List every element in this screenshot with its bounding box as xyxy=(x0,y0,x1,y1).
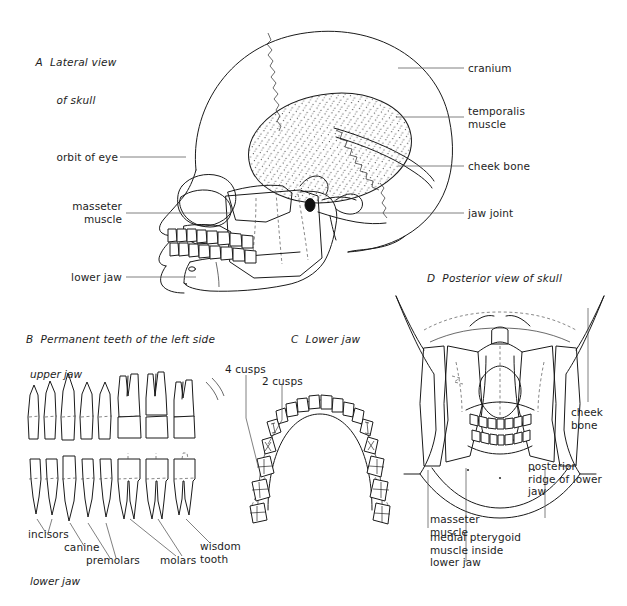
label-orbit-of-eye: orbit of eye xyxy=(24,151,118,164)
label-cheek-bone-d: cheek bone xyxy=(571,406,603,431)
lower-jaw-teeth-row xyxy=(29,453,195,521)
label-molars: molars xyxy=(160,554,196,567)
leader-premolars-2 xyxy=(106,523,116,558)
anatomy-figure-skull-and-teeth: A Lateral view of skull orbit of eye mas… xyxy=(0,0,627,606)
arch-anterior-teeth xyxy=(276,395,364,424)
leader-molars-1 xyxy=(130,519,176,556)
panel-b-title: B Permanent teeth of the left side xyxy=(26,333,215,346)
panel-a-title: A Lateral view of skull xyxy=(22,31,130,131)
posterior-lower-teeth xyxy=(472,430,530,445)
label-lower-jaw-a: lower jaw xyxy=(24,271,122,284)
temporalis-muscle-shape xyxy=(241,82,420,214)
label-temporalis-muscle: temporalis muscle xyxy=(468,105,525,130)
posterior-upper-teeth xyxy=(470,414,531,429)
panel-d-title: D Posterior view of skull xyxy=(427,272,562,285)
jaw-joint-marker xyxy=(305,199,315,212)
label-2-cusps: 2 cusps xyxy=(262,375,303,388)
arch-molars xyxy=(250,456,390,524)
label-incisors: incisors xyxy=(28,528,69,541)
panel-a-lateral-skull-art xyxy=(120,31,464,293)
label-lower-jaw-b: lower jaw xyxy=(30,575,80,588)
label-masseter-muscle-a: masseter muscle xyxy=(24,200,122,225)
label-cranium: cranium xyxy=(468,62,512,75)
panel-a-title-line1: A Lateral view xyxy=(22,56,130,69)
label-jaw-joint: jaw joint xyxy=(468,207,513,220)
leader-molars-2 xyxy=(158,519,182,556)
panel-c-title: C Lower jaw xyxy=(291,333,360,346)
label-wisdom-tooth: wisdom tooth xyxy=(200,540,241,565)
medial-pterygoid-left-shape xyxy=(444,346,482,462)
label-canine: canine xyxy=(64,541,100,554)
label-posterior-ridge: posterior ridge of lower jaw xyxy=(528,460,602,498)
label-upper-jaw: upper jaw xyxy=(30,368,82,381)
label-medial-pterygoid: medial pterygoid muscle inside lower jaw xyxy=(430,531,521,569)
upper-jaw-teeth-row xyxy=(28,372,195,440)
label-cheek-bone-a: cheek bone xyxy=(468,160,530,173)
panel-c-lower-jaw-art xyxy=(206,375,390,524)
medial-pterygoid-right-shape xyxy=(518,346,556,462)
label-premolars: premolars xyxy=(86,554,140,567)
leader-4-cusps xyxy=(246,375,258,466)
panel-a-title-line2: of skull xyxy=(22,94,130,107)
label-4-cusps: 4 cusps xyxy=(225,363,266,376)
